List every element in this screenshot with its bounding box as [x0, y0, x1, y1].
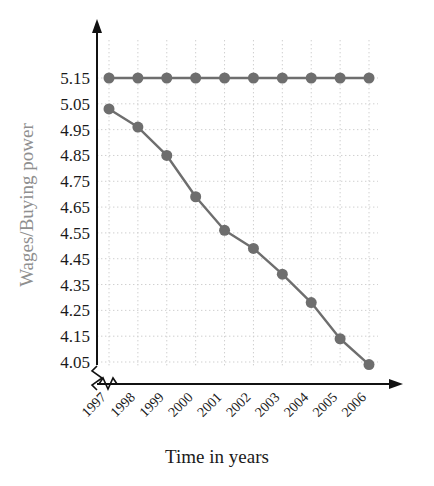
gridlines-horizontal — [97, 78, 378, 362]
x-tick-label: 2002 — [223, 390, 253, 420]
y-tick-label: 5.05 — [60, 95, 90, 114]
y-axis — [92, 19, 102, 390]
data-point-marker — [335, 73, 346, 84]
chart-container: 4.054.154.254.354.454.554.654.754.854.95… — [0, 0, 434, 486]
data-point-marker — [104, 73, 115, 84]
data-point-marker — [132, 122, 143, 133]
data-point-marker — [161, 150, 172, 161]
data-point-marker — [277, 269, 288, 280]
x-tick-label: 2004 — [281, 390, 311, 420]
data-point-marker — [219, 73, 230, 84]
y-tick-label: 5.15 — [60, 69, 90, 88]
data-point-marker — [132, 73, 143, 84]
data-point-marker — [306, 297, 317, 308]
series-line — [109, 109, 369, 365]
x-axis — [97, 378, 403, 389]
series-buying-power — [104, 103, 375, 370]
data-point-marker — [248, 73, 259, 84]
x-tick-labels: 1997199819992000200120022003200420052006 — [79, 390, 369, 420]
y-tick-label: 4.35 — [60, 276, 90, 295]
wages-buying-power-line-chart: 4.054.154.254.354.454.554.654.754.854.95… — [0, 0, 434, 486]
data-point-marker — [364, 359, 375, 370]
y-tick-label: 4.65 — [60, 198, 90, 217]
x-tick-label: 2005 — [310, 390, 340, 420]
y-tick-labels: 4.054.154.254.354.454.554.654.754.854.95… — [60, 69, 90, 372]
y-tick-label: 4.55 — [60, 224, 90, 243]
series-wages — [104, 73, 375, 84]
data-point-marker — [190, 191, 201, 202]
data-point-marker — [219, 225, 230, 236]
x-tick-label: 2003 — [252, 390, 282, 420]
x-tick-label: 2006 — [339, 390, 369, 420]
data-point-marker — [161, 73, 172, 84]
y-tick-label: 4.95 — [60, 121, 90, 140]
x-tick-label: 1998 — [108, 390, 138, 420]
x-tick-label: 1997 — [79, 390, 109, 420]
y-tick-label: 4.15 — [60, 327, 90, 346]
x-tick-label: 2000 — [165, 390, 195, 420]
y-axis-title: Wages/Buying power — [16, 123, 37, 287]
data-point-marker — [364, 73, 375, 84]
y-tick-label: 4.05 — [60, 353, 90, 372]
data-point-marker — [190, 73, 201, 84]
y-tick-label: 4.45 — [60, 250, 90, 269]
data-point-marker — [277, 73, 288, 84]
data-point-marker — [306, 73, 317, 84]
y-tick-label: 4.25 — [60, 301, 90, 320]
data-point-marker — [335, 333, 346, 344]
data-point-marker — [248, 243, 259, 254]
y-tick-label: 4.85 — [60, 146, 90, 165]
x-tick-label: 2001 — [194, 390, 224, 420]
y-tick-label: 4.75 — [60, 172, 90, 191]
data-point-marker — [104, 103, 115, 114]
gridlines-vertical — [109, 40, 369, 367]
x-tick-label: 1999 — [136, 390, 166, 420]
x-axis-title: Time in years — [165, 446, 269, 467]
